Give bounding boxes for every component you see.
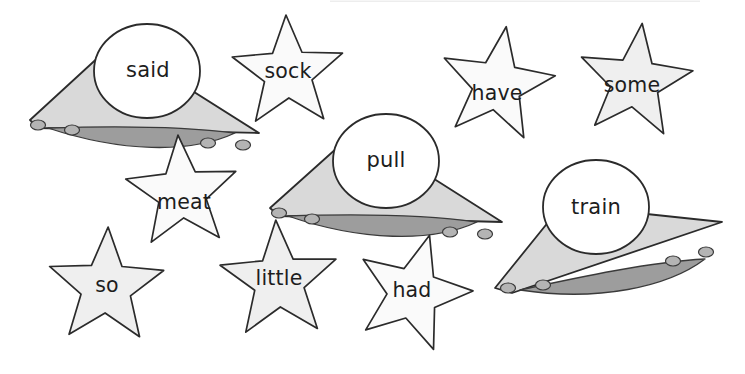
card-star-little[interactable]: little <box>218 217 340 333</box>
ufo-light-2 <box>65 125 80 135</box>
card-word-label: little <box>256 266 303 290</box>
ufo-light-4 <box>699 247 714 257</box>
card-star-sock[interactable]: sock <box>231 13 345 122</box>
ufo-light-1 <box>501 283 516 293</box>
word-cards-scene: saidpulltrainsockhavesomemeatsolittlehad <box>0 0 745 374</box>
card-ufo-pull[interactable]: pull <box>270 114 502 239</box>
ufo-light-3 <box>201 138 216 148</box>
card-word-label: have <box>471 81 522 105</box>
ufo-light-4 <box>478 229 493 239</box>
card-star-some[interactable]: some <box>573 17 697 137</box>
ufo-light-4 <box>236 140 251 150</box>
ufo-light-3 <box>666 256 681 266</box>
card-star-have[interactable]: have <box>434 18 562 141</box>
ufo-light-1 <box>272 208 287 218</box>
card-star-had[interactable]: had <box>345 220 485 356</box>
card-ufo-train[interactable]: train <box>495 160 722 294</box>
card-ufo-said[interactable]: said <box>30 24 259 150</box>
card-word-label: pull <box>366 148 405 172</box>
ufo-light-2 <box>536 280 551 290</box>
ufo-light-2 <box>305 214 320 224</box>
star-shape <box>434 18 562 141</box>
card-word-label: had <box>392 278 431 302</box>
cards-layer: saidpulltrainsockhavesomemeatsolittlehad <box>30 13 722 355</box>
card-word-label: train <box>571 195 621 219</box>
ufo-light-1 <box>31 120 46 130</box>
card-word-label: so <box>95 273 119 297</box>
star-shape <box>123 131 240 243</box>
worksheet-canvas: saidpulltrainsockhavesomemeatsolittlehad <box>0 0 745 374</box>
card-word-label: sock <box>264 59 311 83</box>
card-word-label: some <box>604 73 661 97</box>
card-star-so[interactable]: so <box>47 225 165 337</box>
card-word-label: said <box>126 58 170 82</box>
ufo-light-3 <box>443 227 458 237</box>
card-word-label: meat <box>157 190 211 214</box>
card-star-meat[interactable]: meat <box>123 131 240 243</box>
